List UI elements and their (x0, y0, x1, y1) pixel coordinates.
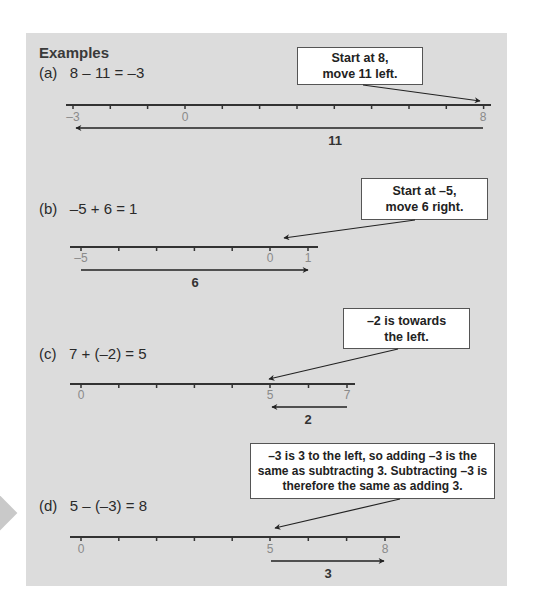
tick-label: 0 (78, 388, 85, 402)
move-count-label: 6 (191, 275, 198, 290)
example-a-number-line: –3 0 8 11 (66, 85, 491, 148)
example-c-number-line: 0 5 7 2 (70, 349, 398, 427)
callout-pointer-arrow (363, 85, 480, 101)
move-count-label: 3 (324, 566, 331, 581)
move-count-label: 2 (304, 412, 311, 427)
move-count-label: 11 (328, 133, 342, 148)
example-d-number-line: 0 5 8 3 (70, 499, 400, 581)
example-b-number-line: –5 0 1 6 (70, 220, 415, 290)
callout-pointer-arrow (284, 220, 415, 238)
tick-label: 0 (182, 110, 189, 124)
tick-label: 8 (480, 110, 487, 124)
tick-label: 1 (305, 251, 312, 265)
number-lines-diagram: –3 0 8 11 –5 0 1 6 0 5 7 (0, 0, 533, 610)
tick-label: 8 (382, 542, 389, 556)
callout-pointer-arrow (269, 349, 398, 379)
tick-label: 0 (78, 542, 85, 556)
tick-label: –3 (66, 110, 80, 124)
tick-label: 5 (267, 388, 274, 402)
tick-label: 0 (267, 251, 274, 265)
tick-label: –5 (74, 251, 88, 265)
tick-label: 7 (344, 388, 351, 402)
callout-pointer-arrow (275, 499, 400, 528)
tick-label: 5 (267, 542, 274, 556)
